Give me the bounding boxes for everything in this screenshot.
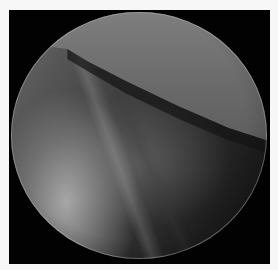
lens-rim	[11, 12, 267, 259]
scope-circular-view	[11, 12, 267, 259]
black-frame	[9, 10, 270, 264]
